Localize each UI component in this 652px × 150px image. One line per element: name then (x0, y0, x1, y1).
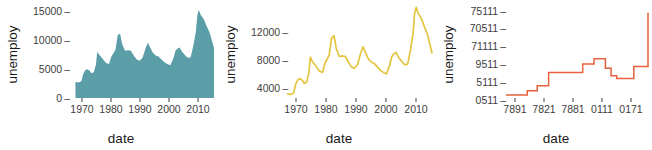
chart-panel-3: unemploy 0511– 5111– 9511– 71111– 70511–… (436, 0, 652, 150)
y-tick-label: 4000– (257, 82, 288, 94)
y-tick-label: 10000– (33, 34, 70, 46)
x-tick-label: 2010 (186, 103, 209, 115)
line-series-panel-2 (286, 6, 432, 98)
area-series-panel-1 (74, 6, 214, 98)
line-path (288, 7, 432, 94)
x-tick-label: 0111 (591, 103, 613, 115)
x-tick-label: 7891 (503, 103, 526, 115)
x-tick (82, 98, 83, 102)
y-tick-label: 8000– (257, 54, 288, 66)
x-tick (296, 98, 297, 102)
y-tick-label: 0511– (476, 94, 506, 106)
y-tick-label: 0– (56, 92, 70, 104)
x-tick (573, 98, 574, 102)
y-tick-label: 5000– (39, 63, 70, 75)
chart-panel-2: unemploy 4000– 8000– 12000– 1970 1980 19… (218, 0, 436, 150)
x-tick-label: 7821 (532, 103, 555, 115)
plot-area-panel-2 (286, 6, 432, 98)
step-path (506, 13, 648, 95)
x-tick-label: 2000 (157, 103, 180, 115)
x-tick (356, 98, 357, 102)
x-axis-title-panel-1: date (24, 131, 218, 146)
y-tick-label: 9511– (476, 58, 506, 70)
x-tick-label: 1980 (99, 103, 122, 115)
x-tick-label: 1970 (70, 103, 93, 115)
y-tick-label: 12000– (251, 26, 288, 38)
plot-area-panel-3 (506, 6, 648, 98)
x-tick-label: 0171 (619, 103, 642, 115)
y-tick-label: 75111– (471, 5, 506, 17)
chart-panel-1: unemploy 0– 5000– 10000– 15000– 1970 198… (0, 0, 218, 150)
x-tick-label: 2010 (404, 103, 427, 115)
x-axis-panel-3: 7891 7821 7881 0111 0171 (506, 98, 648, 122)
x-tick (386, 98, 387, 102)
step-series-panel-3 (506, 6, 648, 98)
x-tick (198, 98, 199, 102)
x-tick (544, 98, 545, 102)
x-axis-title-panel-2: date (242, 131, 436, 146)
y-tick-label: 71111– (471, 40, 506, 52)
x-tick (140, 98, 141, 102)
y-axis-tick-labels-panel-2: 4000– 8000– 12000– (238, 0, 288, 104)
x-tick-label: 2000 (374, 103, 397, 115)
area-path (75, 10, 214, 98)
y-tick-label: 70511– (470, 22, 506, 34)
x-tick-label: 1990 (128, 103, 151, 115)
x-axis-panel-1: 1970 1980 1990 2000 2010 (74, 98, 214, 122)
y-axis-tick-labels-panel-3: 0511– 5111– 9511– 71111– 70511– 75111– (456, 0, 506, 104)
x-axis-panel-2: 1970 1980 1990 2000 2010 (286, 98, 432, 122)
x-tick (631, 98, 632, 102)
y-tick-label: 15000– (33, 5, 70, 17)
x-tick-label: 7881 (561, 103, 584, 115)
x-tick-label: 1990 (344, 103, 367, 115)
x-tick (169, 98, 170, 102)
x-tick (416, 98, 417, 102)
y-tick-label: 5111– (476, 76, 506, 88)
x-tick (326, 98, 327, 102)
x-tick-label: 1970 (284, 103, 307, 115)
y-axis-tick-labels-panel-1: 0– 5000– 10000– 15000– (20, 0, 70, 104)
x-tick (111, 98, 112, 102)
plot-area-panel-1 (74, 6, 214, 98)
x-tick (602, 98, 603, 102)
multi-panel-figure: unemploy 0– 5000– 10000– 15000– 1970 198… (0, 0, 652, 150)
x-tick-label: 1980 (314, 103, 337, 115)
x-tick (515, 98, 516, 102)
x-axis-title-panel-3: date (460, 131, 652, 146)
